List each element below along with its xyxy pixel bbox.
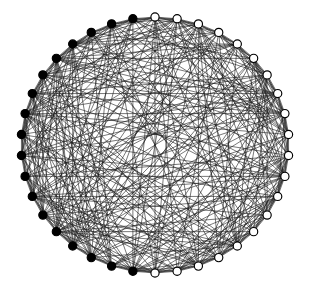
graph-node-hollow-18[interactable] (173, 267, 181, 275)
graph-node-hollow-4[interactable] (233, 40, 241, 48)
graph-node-hollow-19[interactable] (151, 269, 159, 277)
graph-node-filled-23[interactable] (69, 242, 77, 250)
graph-node-filled-34[interactable] (69, 40, 77, 48)
graph-node-filled-37[interactable] (129, 15, 137, 23)
graph-node-hollow-12[interactable] (274, 192, 282, 200)
graph-node-filled-29[interactable] (17, 130, 25, 138)
graph-node-hollow-11[interactable] (281, 172, 289, 180)
graph-node-hollow-14[interactable] (250, 228, 258, 236)
graph-node-hollow-10[interactable] (284, 151, 292, 159)
graph-node-filled-33[interactable] (52, 54, 60, 62)
graph-node-filled-36[interactable] (108, 20, 116, 28)
graph-node-hollow-6[interactable] (263, 71, 271, 79)
graph-node-filled-22[interactable] (87, 254, 95, 262)
graph-node-hollow-9[interactable] (284, 130, 292, 138)
graph-node-hollow-17[interactable] (194, 262, 202, 270)
graph-node-hollow-15[interactable] (233, 242, 241, 250)
graph-node-hollow-5[interactable] (250, 54, 258, 62)
graph-node-filled-32[interactable] (39, 71, 47, 79)
graph-node-filled-31[interactable] (28, 89, 36, 97)
graph-node-filled-30[interactable] (21, 110, 29, 118)
graph-node-hollow-8[interactable] (281, 110, 289, 118)
graph-node-filled-35[interactable] (87, 28, 95, 36)
graph-node-filled-25[interactable] (39, 211, 47, 219)
graph-node-filled-27[interactable] (21, 172, 29, 180)
graph-node-hollow-0[interactable] (151, 13, 159, 21)
graph-node-filled-28[interactable] (17, 151, 25, 159)
graph-node-filled-24[interactable] (52, 228, 60, 236)
graph-node-hollow-7[interactable] (274, 89, 282, 97)
edge-layer (21, 17, 288, 273)
graph-node-filled-20[interactable] (129, 267, 137, 275)
graph-node-hollow-1[interactable] (173, 15, 181, 23)
graph-node-hollow-13[interactable] (263, 211, 271, 219)
graph-node-filled-26[interactable] (28, 192, 36, 200)
graph-node-hollow-3[interactable] (215, 28, 223, 36)
graph-node-hollow-2[interactable] (194, 20, 202, 28)
graph-canvas (0, 0, 309, 292)
graph-node-hollow-16[interactable] (215, 254, 223, 262)
circular-graph-figure (0, 0, 309, 292)
graph-node-filled-21[interactable] (108, 262, 116, 270)
